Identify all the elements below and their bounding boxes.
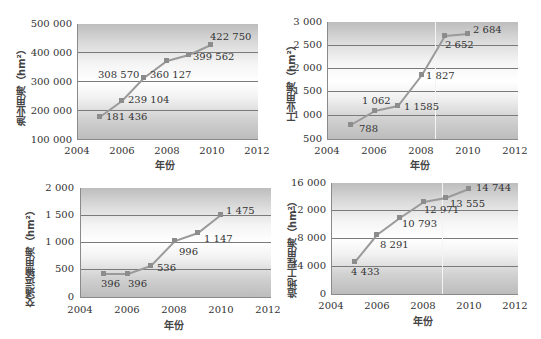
data-label: 4 433 [351, 267, 380, 277]
data-label: 10 793 [402, 219, 437, 229]
data-label: 8 291 [380, 240, 409, 250]
data-label: 13 555 [450, 199, 485, 209]
data-series [0, 0, 541, 339]
data-label: 14 744 [476, 183, 511, 193]
